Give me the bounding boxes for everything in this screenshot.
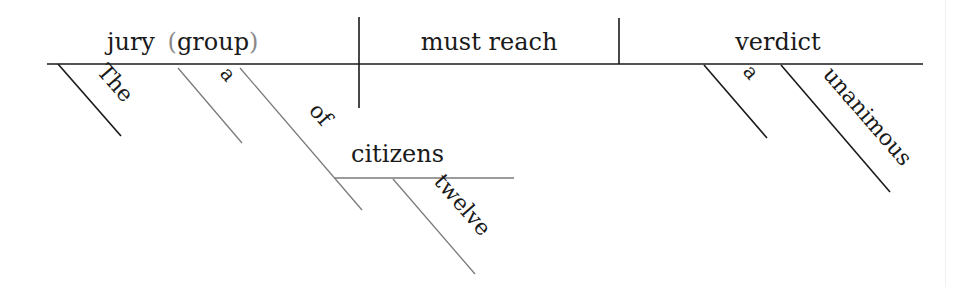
modifier-a-group: a <box>215 62 241 87</box>
modifier-unanimous: unanimous <box>818 62 917 171</box>
preposition-line-of <box>240 68 362 210</box>
appositive-close-paren: ) <box>249 28 258 56</box>
appositive-open-paren: ( <box>168 28 177 56</box>
sentence-diagram: jury (group) must reach verdict The a of… <box>0 0 968 287</box>
subject-word: jury <box>104 28 155 56</box>
modifier-the: The <box>92 59 138 107</box>
subject-text: jury (group) <box>104 28 258 56</box>
preposition-of: of <box>304 98 338 132</box>
page-edge <box>945 0 946 287</box>
verb-phrase: must reach <box>421 28 558 56</box>
direct-object-word: verdict <box>734 28 821 56</box>
appositive-word: group <box>177 28 249 56</box>
modifier-line-a-verdict <box>704 65 767 138</box>
modifier-twelve: twelve <box>429 169 496 241</box>
prep-object-citizens: citizens <box>351 140 444 168</box>
modifier-line-a-group <box>178 68 242 143</box>
